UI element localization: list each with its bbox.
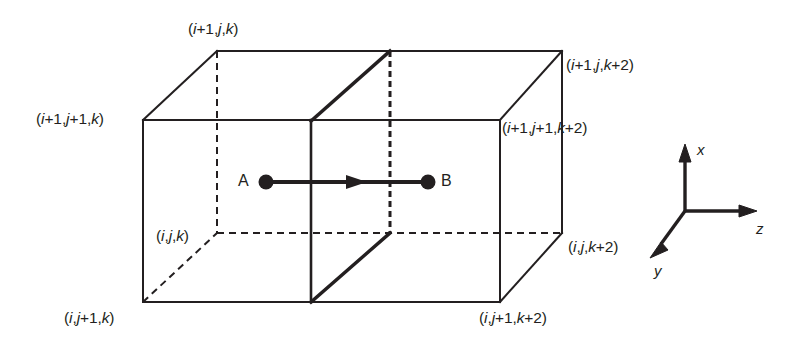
label-axis-x: x: [697, 141, 705, 158]
edge-top-left-depth: [143, 51, 217, 120]
label-axis-z: z: [756, 220, 764, 237]
label-axis-y: y: [654, 262, 662, 279]
label-point-a: A: [238, 172, 249, 190]
label-bottom-back-right: (i,j,k+2): [568, 238, 618, 256]
axis-y-line: [661, 211, 685, 244]
point-b-dot: [421, 175, 436, 190]
vector-a-to-b: [259, 175, 436, 190]
edge-bottom-right-depth: [500, 233, 562, 302]
axis-z-arrowhead: [739, 205, 757, 217]
label-bottom-back-left: (i,j,k): [156, 227, 189, 245]
edge-top-right-depth: [500, 51, 562, 120]
label-top-back-right: (i+1,j,k+2): [566, 56, 634, 74]
cell-diagram: [0, 0, 811, 350]
label-point-b: B: [441, 172, 452, 190]
label-top-back-left: (i+1,j,k): [188, 20, 238, 38]
axis-x-arrowhead: [679, 144, 691, 162]
vector-arrowhead: [346, 175, 367, 189]
edge-midplane-bottom-depth: [311, 233, 390, 302]
label-top-front-left: (i+1,j+1,k): [36, 110, 104, 128]
label-top-front-right: (i+1,j+1,k+2): [502, 119, 587, 137]
edge-midplane-top-depth: [311, 51, 390, 121]
label-bottom-front-left: (i,j+1,k): [64, 309, 114, 327]
figure-canvas: (i+1,j,k) (i+1,j+1,k) (i+1,j,k+2) (i+1,j…: [0, 0, 811, 350]
axis-triad: [650, 144, 757, 258]
label-bottom-front-right: (i,j+1,k+2): [479, 309, 547, 327]
point-a-dot: [259, 175, 274, 190]
axis-y-arrowhead: [650, 242, 668, 258]
